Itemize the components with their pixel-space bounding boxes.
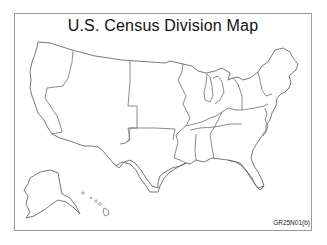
michigan-peninsula: [213, 76, 224, 104]
boundary-wnc-wsc: [130, 128, 175, 140]
boundary-pacific-mountain: [45, 51, 73, 134]
chesapeake-bay: [263, 108, 268, 136]
alaska-inset: [24, 170, 80, 218]
boundary-enc-esc: [186, 108, 242, 126]
florida: [228, 160, 264, 190]
boundary-esc-wsc: [174, 135, 186, 163]
boundary-tn-ky: [190, 124, 242, 130]
hawaii-inset: [82, 192, 109, 216]
boundary-esc-south-atlantic: [210, 112, 222, 158]
boundary-enc-mid-atlantic: [233, 78, 242, 110]
boundary-mid-atlantic-south-atlantic: [242, 104, 268, 110]
figure-code: GR25N01(b): [273, 219, 310, 226]
lake-michigan: [204, 74, 213, 102]
us-outline: [30, 42, 298, 188]
boundary-al-ga: [195, 134, 196, 160]
census-division-map: [0, 0, 327, 245]
boundary-wnc-enc: [176, 64, 190, 135]
texas-coast: [116, 162, 186, 192]
boundary-mid-atlantic-new-england: [258, 72, 272, 96]
boundary-mountain-wnc: [126, 61, 137, 142]
